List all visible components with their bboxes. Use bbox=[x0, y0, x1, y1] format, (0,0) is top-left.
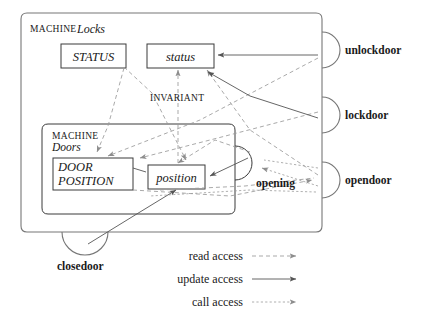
read-edge-status-set-to-doorposition bbox=[97, 68, 124, 152]
invariant-label: INVARIANT bbox=[150, 93, 204, 103]
diagram-canvas: MACHINE Locks MACHINE Doors STATUS statu… bbox=[0, 0, 431, 328]
legend: read access update access call access bbox=[177, 249, 296, 309]
opendoor-bump[interactable] bbox=[322, 162, 340, 198]
update-edge-lockdoor-to-status bbox=[208, 72, 318, 118]
operation-label-lockdoor[interactable]: lockdoor bbox=[345, 109, 388, 121]
read-edge-unlockdoor-to-doorposition bbox=[108, 58, 318, 156]
update-edge-opening-to-position bbox=[210, 158, 248, 176]
update-edge-closedoor-to-position bbox=[88, 190, 176, 244]
status-var-label: status bbox=[166, 50, 195, 64]
operation-label-unlockdoor[interactable]: unlockdoor bbox=[345, 44, 401, 56]
machine-locks-keyword: MACHINE bbox=[30, 24, 76, 34]
update-edge-doorposition-to-position bbox=[133, 168, 146, 172]
door-position-set-label-line2: POSITION bbox=[57, 174, 114, 188]
machine-doors-name: Doors bbox=[51, 141, 81, 153]
unlockdoor-bump[interactable] bbox=[322, 32, 340, 68]
read-edge-lockdoor-to-doorposition bbox=[140, 112, 318, 158]
machine-structure-diagram: MACHINE Locks MACHINE Doors STATUS statu… bbox=[0, 0, 431, 328]
read-edge-opening-to-position bbox=[178, 140, 250, 163]
machine-locks-name: Locks bbox=[76, 22, 105, 36]
call-edge-opendoor-to-opening-b bbox=[264, 160, 318, 168]
operation-label-closedoor[interactable]: closedoor bbox=[57, 260, 104, 272]
door-position-set-label-line1: DOOR bbox=[57, 160, 93, 174]
operation-label-opendoor[interactable]: opendoor bbox=[345, 174, 392, 187]
machine-doors-keyword: MACHINE bbox=[52, 131, 98, 141]
legend-label-update-access: update access bbox=[177, 272, 243, 286]
lockdoor-bump[interactable] bbox=[322, 97, 340, 133]
position-var-label: position bbox=[155, 171, 196, 185]
legend-label-read-access: read access bbox=[189, 249, 244, 263]
update-access-edges bbox=[88, 55, 318, 244]
operation-label-opening[interactable]: opening bbox=[256, 177, 295, 190]
status-set-label: STATUS bbox=[73, 50, 115, 64]
legend-label-call-access: call access bbox=[192, 295, 243, 309]
read-edge-opendoor-to-status bbox=[207, 70, 318, 175]
